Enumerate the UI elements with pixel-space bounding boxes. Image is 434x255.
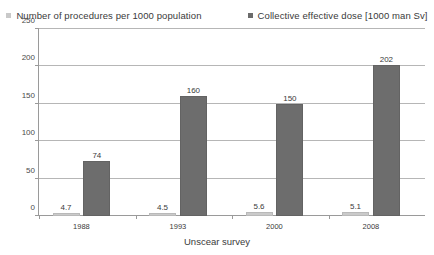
bar-value-label: 160: [187, 86, 200, 95]
legend-label-procedures: Number of procedures per 1000 population: [16, 10, 201, 21]
chart-container: Number of procedures per 1000 population…: [0, 0, 434, 255]
y-axis-tick-label: 250: [22, 16, 35, 25]
y-axis-tick-label: 150: [22, 90, 35, 99]
chart-legend: Number of procedures per 1000 population…: [0, 6, 434, 24]
bar-value-label: 4.5: [157, 203, 168, 212]
bar-dose[interactable]: 74: [83, 161, 110, 216]
legend-entry-dose[interactable]: Collective effective dose [1000 man Sv]: [248, 10, 428, 21]
bar-group: 4.7741988: [39, 29, 136, 216]
bar-value-label: 74: [92, 151, 101, 160]
bar-value-label: 202: [380, 55, 393, 64]
bar-groups: 4.77419884.516019935.615020005.12022008: [39, 29, 425, 216]
bar-dose[interactable]: 150: [276, 104, 303, 216]
bar-procedures[interactable]: 4.7: [53, 213, 80, 217]
legend-swatch-icon-dose: [248, 13, 253, 18]
bar-value-label: 5.6: [253, 202, 264, 211]
x-axis-tick-mark: [232, 216, 233, 219]
bar-procedures[interactable]: 5.6: [246, 212, 273, 216]
plot-area: 050100150200250 4.77419884.516019935.615…: [38, 29, 425, 216]
legend-label-dose: Collective effective dose [1000 man Sv]: [258, 10, 428, 21]
x-axis-title: Unscear survey: [0, 236, 434, 247]
x-axis-category-label: 2000: [266, 222, 283, 231]
bar-value-label: 150: [283, 94, 296, 103]
bar-dose[interactable]: 202: [373, 65, 400, 216]
bar-value-label: 5.1: [350, 202, 361, 211]
y-axis-tick-label: 100: [22, 128, 35, 137]
bar-procedures[interactable]: 4.5: [149, 213, 176, 216]
bar-dose[interactable]: 160: [180, 96, 207, 216]
y-axis-tick-label: 0: [31, 203, 35, 212]
x-axis-tick-mark: [39, 216, 40, 219]
bar-group: 5.12022008: [329, 29, 426, 216]
x-axis-category-label: 2008: [363, 222, 380, 231]
x-axis-tick-mark: [136, 216, 137, 219]
bar-procedures[interactable]: 5.1: [342, 212, 369, 216]
bar-group: 4.51601993: [136, 29, 233, 216]
x-axis-category-label: 1988: [73, 222, 90, 231]
plot-wrapper: 050100150200250 4.77419884.516019935.615…: [38, 29, 425, 216]
legend-entry-procedures[interactable]: Number of procedures per 1000 population: [6, 10, 201, 21]
legend-swatch-icon-procedures: [6, 13, 11, 18]
bar-group: 5.61502000: [232, 29, 329, 216]
y-axis-tick-label: 200: [22, 53, 35, 62]
y-axis-tick-label: 50: [26, 165, 35, 174]
x-axis-tick-mark: [329, 216, 330, 219]
bar-value-label: 4.7: [60, 203, 71, 212]
x-axis-category-label: 1993: [170, 222, 187, 231]
